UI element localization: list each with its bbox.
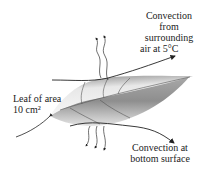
label-line: Convection	[136, 10, 202, 21]
label-line: surrounding	[136, 32, 202, 43]
bottom-convection-arrow	[70, 123, 174, 143]
label-line: Convection at	[122, 142, 198, 153]
label-line: air at 5°C	[136, 43, 202, 54]
label-line: bottom surface	[122, 153, 198, 164]
leaf-convection-diagram: Convection from surrounding air at 5°C L…	[0, 0, 203, 173]
label-line: 10 cm²	[13, 104, 61, 115]
label-line: from	[136, 21, 202, 32]
leaf-stem	[16, 116, 50, 137]
heat-wave-down-1	[86, 126, 90, 146]
heat-wave-down-3	[104, 126, 106, 150]
top-convection-label: Convection from surrounding air at 5°C	[136, 10, 202, 54]
heat-wave-down-2	[95, 126, 97, 148]
label-line: Leaf of area	[13, 93, 61, 104]
heat-wave-up-2	[103, 36, 108, 80]
heat-wave-up-1	[96, 38, 101, 78]
bottom-convection-label: Convection at bottom surface	[122, 142, 198, 164]
leaf-area-label: Leaf of area 10 cm²	[13, 93, 61, 115]
